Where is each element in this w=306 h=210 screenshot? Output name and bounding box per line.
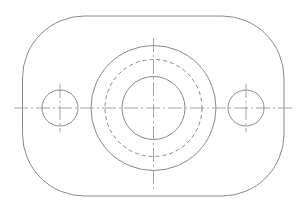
technical-drawing [0, 0, 306, 210]
